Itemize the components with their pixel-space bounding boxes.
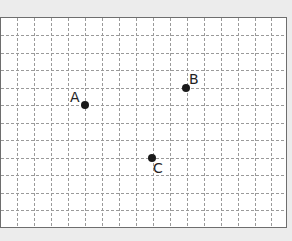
grid-canvas	[0, 0, 292, 241]
grid-lines	[1, 18, 286, 227]
point-label-b: B	[189, 72, 199, 86]
point-a	[81, 101, 89, 109]
point-label-c: C	[153, 161, 163, 175]
point-label-a: A	[70, 90, 80, 104]
